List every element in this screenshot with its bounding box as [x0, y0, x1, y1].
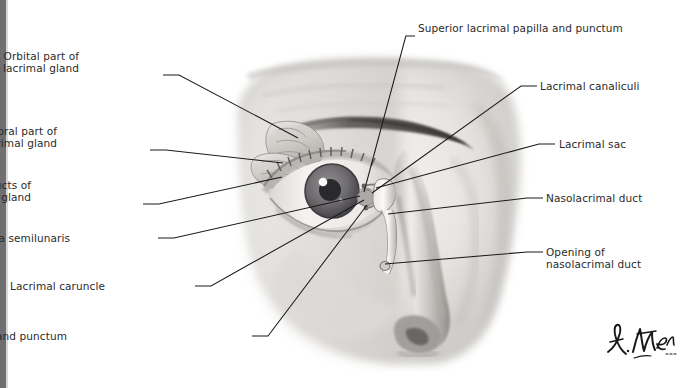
label-line: Superior lacrimal papilla and punctum: [418, 22, 623, 34]
nasolacrimal-duct-opening: [380, 262, 390, 271]
face-illustration: [222, 59, 521, 365]
label-orbital-part-of-lacrimal-gland[interactable]: Orbital part oflacrimal gland: [3, 50, 79, 74]
label-line: nasolacrimal duct: [546, 258, 641, 270]
label-line: Excretory ducts of: [0, 179, 31, 191]
label-line: Palpebral part of: [0, 125, 57, 137]
label-line: Opening of: [546, 246, 641, 258]
figure-canvas: Orbital part oflacrimal glandPalpebral p…: [0, 0, 689, 388]
label-superior-lacrimal-papilla-and-punctum[interactable]: Superior lacrimal papilla and punctum: [418, 22, 623, 34]
label-plica-semilunaris[interactable]: Plica semilunaris: [0, 232, 70, 244]
label-nasolacrimal-duct[interactable]: Nasolacrimal duct: [546, 192, 642, 204]
label-excretory-ducts-of-lacrimal-gland[interactable]: Excretory ducts oflacrimal gland: [0, 179, 31, 203]
label-line: Lacrimal canaliculi: [540, 80, 640, 92]
label-line: Orbital part of: [3, 50, 79, 62]
artist-signature: [604, 318, 682, 364]
label-lacrimal-canaliculi[interactable]: Lacrimal canaliculi: [540, 80, 640, 92]
label-opening-of-nasolacrimal-duct[interactable]: Opening ofnasolacrimal duct: [546, 246, 641, 270]
corneal-highlight: [319, 178, 328, 187]
medial-canthus: [357, 188, 375, 207]
label-lacrimal-sac[interactable]: Lacrimal sac: [559, 138, 626, 150]
label-line: Lacrimal sac: [559, 138, 626, 150]
label-line: lacrimal gland: [0, 137, 57, 149]
label-palpebral-part-of-lacrimal-gland[interactable]: Palpebral part oflacrimal gland: [0, 125, 57, 149]
label-line: lacrimal gland: [0, 191, 31, 203]
label-line: Lacrimal caruncle: [10, 280, 105, 292]
label-line: Plica semilunaris: [0, 232, 70, 244]
label-line: Inferior lacrimal papilla and punctum: [0, 330, 67, 342]
label-lacrimal-caruncle[interactable]: Lacrimal caruncle: [10, 280, 105, 292]
label-line: lacrimal gland: [3, 62, 79, 74]
label-inferior-lacrimal-papilla-and-punctum[interactable]: Inferior lacrimal papilla and punctum: [0, 330, 67, 342]
label-line: Nasolacrimal duct: [546, 192, 642, 204]
